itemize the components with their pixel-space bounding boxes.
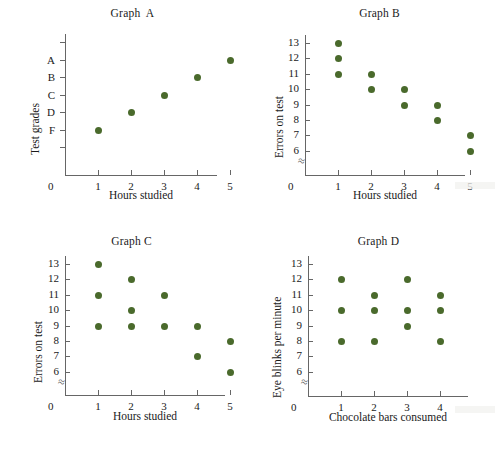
graph-c-data-point <box>161 292 168 299</box>
graph-c-data-point <box>194 353 201 360</box>
graph-d-data-point <box>338 276 345 283</box>
graph-d-data-point <box>338 338 345 345</box>
graph-b-data-point <box>467 148 474 155</box>
scatterplot-figure-grid: Graph A ABCDF123450 Hours studied Test g… <box>0 0 495 456</box>
graph-a-x-tick <box>98 170 99 175</box>
graph-a-y-axis-title: Test grades <box>30 103 42 155</box>
graph-b-y-tick <box>305 58 310 59</box>
graph-b-y-tick-label: 10 <box>281 83 299 94</box>
graph-c-y-axis-title: Errors on test <box>33 321 45 383</box>
graph-b-x-tick <box>404 170 405 175</box>
graph-b-data-point <box>335 71 342 78</box>
panel-graph-b: Graph B 131211109876≈123450 Hours studie… <box>248 0 495 228</box>
graph-a-y-tick-label: C <box>39 90 55 101</box>
graph-c-x-tick <box>131 390 132 395</box>
graph-a-data-point <box>128 109 135 116</box>
graph-c-data-point <box>227 338 234 345</box>
graph-a-y-tick <box>60 130 65 131</box>
graph-d-y-tick <box>308 326 313 327</box>
graph-a-x-axis-title: Hours studied <box>0 190 265 202</box>
graph-d-y-tick-label: 12 <box>284 273 302 284</box>
graph-b-x-axis-title: Hours studied <box>248 190 495 202</box>
panel-graph-c: Graph C 131211109876≈123450 Hours studie… <box>0 228 247 456</box>
graph-b-x-tick <box>371 170 372 175</box>
graph-b-data-point <box>401 102 408 109</box>
graph-a-y-tick <box>60 60 65 61</box>
graph-d-data-point <box>404 323 411 330</box>
graph-a-x-tick <box>164 170 165 175</box>
panel-graph-a: Graph A ABCDF123450 Hours studied Test g… <box>0 0 247 228</box>
graph-c-y-tick <box>65 372 70 373</box>
graph-b-y-tick <box>305 43 310 44</box>
graph-b-y-axis-title: Errors on test <box>274 96 286 158</box>
graph-a-y-tick-label: A <box>39 55 55 66</box>
graph-b-data-point <box>434 102 441 109</box>
graph-c-data-point <box>128 276 135 283</box>
graph-d-x-tick <box>341 391 342 396</box>
graph-b-x-axis-line <box>305 175 465 176</box>
graph-a-data-point <box>194 74 201 81</box>
graph-a-y-tick <box>60 112 65 113</box>
graph-d-data-point <box>437 338 444 345</box>
graph-b-y-tick-label: 13 <box>281 37 299 48</box>
graph-b-data-point <box>467 132 474 139</box>
graph-c-data-point <box>128 307 135 314</box>
graph-c-y-tick <box>65 279 70 280</box>
graph-c-x-axis-line <box>65 395 225 396</box>
graph-d-y-axis-title: Eye blinks per minute <box>272 297 284 398</box>
graph-a-y-tick <box>60 42 65 43</box>
graph-d-data-point <box>404 307 411 314</box>
graph-b-y-tick <box>305 120 310 121</box>
graph-b-y-tick <box>305 105 310 106</box>
graph-d-data-point <box>437 307 444 314</box>
graph-d-y-tick <box>308 372 313 373</box>
graph-b-x-tick <box>437 170 438 175</box>
graph-a-y-tick-label: B <box>39 72 55 83</box>
graph-c-y-tick-label: 10 <box>41 304 59 315</box>
graph-b-data-point <box>368 71 375 78</box>
graph-d-y-tick-label: 10 <box>284 304 302 315</box>
graph-a-data-point <box>161 92 168 99</box>
scan-artifact <box>455 406 495 413</box>
graph-d-data-point <box>371 338 378 345</box>
graph-c-y-tick-label: 13 <box>41 258 59 269</box>
graph-a-y-tick <box>60 77 65 78</box>
graph-c-x-tick <box>98 390 99 395</box>
graph-c-x-tick <box>197 390 198 395</box>
graph-d-y-tick-label: 7 <box>284 350 302 361</box>
graph-b-x-tick <box>338 170 339 175</box>
graph-d-y-tick <box>308 295 313 296</box>
graph-d-x-axis-title: Chocolate bars consumed <box>248 412 495 424</box>
graph-a-x-axis-line <box>65 175 217 176</box>
graph-a-y-axis-line <box>65 34 66 175</box>
graph-a-data-point <box>227 57 234 64</box>
graph-b-data-point <box>335 55 342 62</box>
graph-d-y-tick-label: 13 <box>284 258 302 269</box>
graph-d-y-tick-label: 8 <box>284 335 302 346</box>
graph-a-y-tick <box>60 95 65 96</box>
panel-graph-d: Graph D 131211109876≈12340 Chocolate bar… <box>248 228 495 456</box>
graph-c-y-tick-label: 12 <box>41 273 59 284</box>
graph-d-data-point <box>338 307 345 314</box>
graph-c-y-tick-label: 11 <box>41 289 59 300</box>
graph-d-data-point <box>371 307 378 314</box>
graph-b-y-tick <box>305 135 310 136</box>
graph-d-data-point <box>371 292 378 299</box>
graph-b-data-point <box>368 86 375 93</box>
graph-c-y-tick <box>65 341 70 342</box>
graph-d-y-tick <box>308 264 313 265</box>
graph-a-y-tick <box>60 147 65 148</box>
graph-c-y-tick <box>65 310 70 311</box>
graph-a-x-tick <box>230 170 231 175</box>
graph-a-x-tick <box>197 170 198 175</box>
graph-d-y-tick <box>308 341 313 342</box>
graph-c-x-tick <box>164 390 165 395</box>
graph-a-x-tick <box>131 170 132 175</box>
graph-d-x-axis-line <box>308 396 468 397</box>
graph-d-y-tick-label: 6 <box>284 366 302 377</box>
graph-c-y-tick <box>65 295 70 296</box>
graph-c-data-point <box>227 369 234 376</box>
graph-d-x-tick <box>407 391 408 396</box>
graph-b-y-tick <box>305 151 310 152</box>
graph-d-data-point <box>404 276 411 283</box>
